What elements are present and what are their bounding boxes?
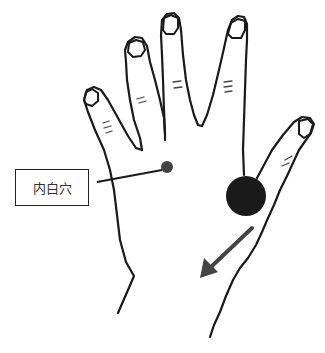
leader-line xyxy=(97,170,162,182)
neibai-acupoint xyxy=(161,161,173,173)
ring-finger-nail xyxy=(128,40,145,57)
large-acupoint xyxy=(226,176,266,216)
direction-arrow-icon xyxy=(200,228,252,278)
middle-finger-nail xyxy=(163,15,178,34)
acupoint-label: 内白穴 xyxy=(33,178,72,197)
acupoint-label-box: 内白穴 xyxy=(15,169,89,206)
thumb-nail xyxy=(299,119,313,138)
hand-outline xyxy=(84,13,314,337)
little-finger-nail xyxy=(84,89,98,106)
